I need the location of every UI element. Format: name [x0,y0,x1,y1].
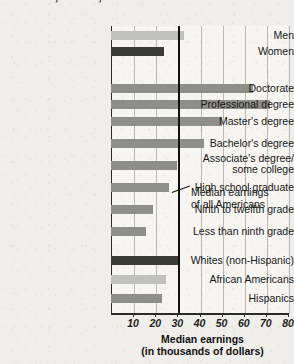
x-tick-label-50: 50 [216,317,228,329]
bar-category-label-line: Less than ninth grade [188,226,294,237]
x-tick-label-70: 70 [260,317,272,329]
x-tick-20 [155,313,156,317]
bar-category-label-line: Bachelor's degree [188,138,294,149]
bar-category-label: Women [188,46,294,57]
bar [111,256,180,265]
bar [111,205,153,214]
x-tick-label-40: 40 [194,317,206,329]
x-tick-label-20: 20 [149,317,161,329]
bar-category-label-line: Professional degree [188,99,294,110]
bar-chart: Median earnings of all Americans Median … [0,0,294,364]
bar-category-label: Hispanics [188,293,294,304]
bar-category-label: Professional degree [188,99,294,110]
bar [111,161,177,170]
x-axis-title-line-1: Median earnings [111,333,294,345]
bar-category-label-line: Master's degree [188,116,294,127]
median-annotation: Median earnings of all Americans [191,186,269,210]
bar-category-label: Less than ninth grade [188,226,294,237]
x-tick-label-60: 60 [238,317,250,329]
x-axis-title-line-2: (in thousands of dollars) [111,345,294,357]
gridline-10 [134,26,135,314]
bar-category-label-line: Men [188,30,294,41]
x-axis-title: Median earnings (in thousands of dollars… [111,333,294,357]
chart-title-line-1: Gender, Race, and Education Level [4,0,290,4]
x-tick-50 [222,313,223,317]
x-tick-30 [177,313,178,317]
x-tick-40 [200,313,201,317]
median-annotation-line-1: Median earnings [191,186,269,198]
x-tick-label-80: 80 [282,317,294,329]
bar-category-label-line: Doctorate [188,83,294,94]
bar [111,275,166,284]
bar-category-label: Bachelor's degree [188,138,294,149]
bar-category-label-line: Whites (non-Hispanic) [188,255,294,266]
bar-category-label: Men [188,30,294,41]
bar [111,31,184,40]
bar-category-label: African Americans [188,274,294,285]
x-tick-60 [244,313,245,317]
x-tick-label-30: 30 [172,317,184,329]
median-annotation-line-2: of all Americans [191,198,269,210]
bar-category-label-line: Women [188,46,294,57]
bar [111,227,146,236]
gridline-20 [156,26,157,314]
bar [111,294,162,303]
bar-category-label-line: African Americans [188,274,294,285]
bar-category-label-line: some college [188,164,294,175]
x-tick-70 [266,313,267,317]
x-tick-10 [133,313,134,317]
bar-category-label: Master's degree [188,116,294,127]
x-tick-80 [288,313,289,317]
chart-title: Gender, Race, and Education Level [4,0,290,4]
bar-category-label: Associate's degree/some college [188,153,294,175]
bar-category-label: Doctorate [188,83,294,94]
x-tick-label-10: 10 [127,317,139,329]
bar [111,47,164,56]
bar-category-label: Whites (non-Hispanic) [188,255,294,266]
bar [111,183,169,192]
median-reference-line [178,26,180,314]
bar-category-label-line: Hispanics [188,293,294,304]
